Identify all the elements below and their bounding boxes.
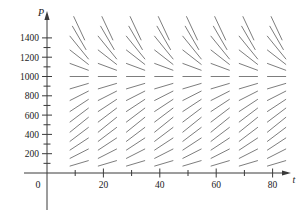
slope-field-plot: 20040060080010001200140020406080 P t 0 [0, 0, 305, 217]
slope-segment [154, 149, 173, 159]
slope-segment [126, 149, 145, 159]
slope-segment [211, 63, 230, 70]
slope-segment [98, 83, 117, 89]
slope-segment [183, 50, 202, 65]
slope-segment [211, 36, 230, 59]
slope-segment [70, 91, 89, 101]
slope-segment [183, 83, 202, 89]
slope-segment [102, 16, 113, 40]
y-tick-label-800: 800 [25, 91, 40, 101]
slope-field-figure: 20040060080010001200140020406080 P t 0 [0, 0, 305, 217]
slope-segment [267, 91, 286, 101]
slope-segment [239, 50, 258, 65]
slope-segment [154, 83, 173, 89]
slope-segment [186, 16, 197, 40]
slope-segment [70, 161, 89, 167]
slope-segment [126, 91, 145, 101]
slope-segment [74, 16, 85, 40]
slope-segment [211, 117, 230, 132]
origin-label: 0 [36, 179, 41, 190]
slope-segment [239, 117, 258, 132]
slope-segment [183, 36, 202, 59]
x-axis-arrowhead [282, 170, 291, 175]
slope-segment [243, 16, 254, 40]
slope-segment [154, 117, 173, 132]
slope-segment [211, 83, 230, 89]
slope-segment [154, 50, 173, 65]
slope-segment [70, 50, 89, 65]
slope-segment [267, 161, 286, 167]
x-tick-label-20: 20 [99, 180, 109, 190]
slope-segment [126, 161, 145, 167]
y-tick-label-1000: 1000 [20, 72, 39, 82]
slope-segment [211, 91, 230, 101]
slope-segments [70, 16, 286, 166]
slope-segment [70, 149, 89, 159]
slope-segment [267, 36, 286, 59]
slope-segment [183, 149, 202, 159]
y-tick-label-1200: 1200 [20, 53, 39, 63]
slope-segment [239, 36, 258, 59]
slope-segment [158, 16, 169, 40]
slope-segment [98, 36, 117, 59]
slope-segment [98, 161, 117, 167]
slope-segment [271, 16, 282, 40]
slope-segment [211, 149, 230, 159]
slope-segment [211, 161, 230, 167]
slope-segment [98, 50, 117, 65]
slope-segment [154, 63, 173, 70]
slope-segment [211, 50, 230, 65]
slope-segment [239, 149, 258, 159]
slope-segment [239, 91, 258, 101]
y-tick-label-600: 600 [25, 111, 40, 121]
slope-segment [130, 16, 141, 40]
slope-segment [239, 83, 258, 89]
slope-segment [70, 63, 89, 70]
y-tick-label-1400: 1400 [20, 33, 39, 43]
slope-segment [267, 63, 286, 70]
slope-segment [126, 36, 145, 59]
slope-segment [267, 83, 286, 89]
slope-segment [267, 50, 286, 65]
slope-segment [98, 117, 117, 132]
y-tick-label-400: 400 [25, 130, 40, 140]
slope-segment [70, 83, 89, 89]
slope-segment [98, 149, 117, 159]
slope-segment [154, 161, 173, 167]
slope-segment [267, 149, 286, 159]
slope-segment [183, 117, 202, 132]
x-tick-label-80: 80 [268, 180, 278, 190]
slope-segment [154, 36, 173, 59]
y-tick-label-200: 200 [25, 149, 40, 159]
slope-segment [239, 161, 258, 167]
y-axis-arrowhead [44, 11, 49, 20]
slope-segment [70, 117, 89, 132]
slope-segment [98, 91, 117, 101]
slope-segment [183, 91, 202, 101]
slope-segment [70, 36, 89, 59]
slope-segment [183, 161, 202, 167]
slope-segment [126, 63, 145, 70]
x-tick-label-40: 40 [155, 180, 165, 190]
slope-segment [267, 117, 286, 132]
slope-segment [215, 16, 226, 40]
y-axis-label: P [37, 7, 44, 18]
slope-segment [126, 83, 145, 89]
slope-segment [98, 63, 117, 70]
slope-segment [154, 91, 173, 101]
x-axis-label: t [293, 174, 296, 185]
slope-segment [183, 63, 202, 70]
slope-segment [126, 50, 145, 65]
slope-segment [239, 63, 258, 70]
x-tick-label-60: 60 [211, 180, 221, 190]
slope-segment [126, 117, 145, 132]
